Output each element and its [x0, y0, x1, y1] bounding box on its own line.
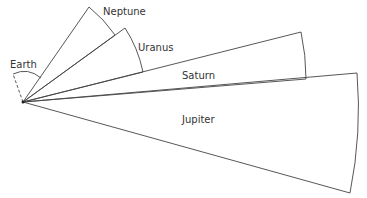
label-uranus: Uranus — [138, 42, 173, 53]
earth-sector-edge — [13, 74, 23, 102]
jupiter-sector — [23, 73, 358, 193]
label-saturn: Saturn — [182, 70, 215, 81]
neptune-sector — [23, 7, 115, 102]
earth-sector-arc — [13, 71, 41, 78]
apex-point — [22, 101, 25, 104]
label-earth: Earth — [10, 59, 37, 70]
label-jupiter: Jupiter — [181, 114, 215, 125]
label-neptune: Neptune — [103, 6, 146, 17]
uranus-sector — [23, 28, 143, 102]
planet-angular-size-diagram: Earth Neptune Uranus Saturn Jupiter — [0, 0, 367, 198]
